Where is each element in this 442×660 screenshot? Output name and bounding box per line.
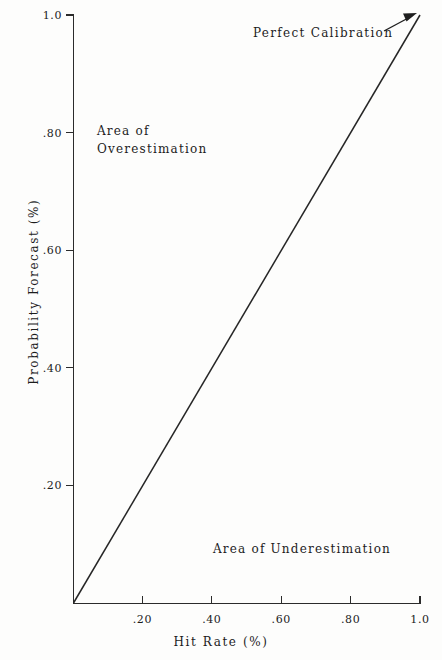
- x-tick-label-0.8: .80: [325, 612, 377, 628]
- x-axis-title: Hit Rate (%): [0, 634, 442, 651]
- chart-canvas: [0, 0, 442, 660]
- y-axis-title: Probability Forecast (%): [26, 225, 43, 385]
- x-tick-label-0.6: .60: [255, 612, 307, 628]
- x-tick-label-1.0: 1.0: [394, 612, 442, 628]
- area-of-overestimation-label: Area of Overestimation: [97, 122, 207, 158]
- overestimation-line-2: Overestimation: [97, 140, 207, 158]
- x-tick-label-0.2: .20: [116, 612, 168, 628]
- overestimation-line-1: Area of: [97, 122, 207, 140]
- y-tick-label-1.0: 1.0: [20, 8, 62, 24]
- perfect-calibration-line: [74, 15, 421, 603]
- perfect-calibration-annotation: Perfect Calibration: [253, 25, 393, 42]
- calibration-chart-figure: 1.0 .80 .60 .40 .20 .20 .40 .60 .80 1.0 …: [0, 0, 442, 660]
- y-tick-label-0.8: .80: [20, 126, 62, 142]
- area-of-underestimation-label: Area of Underestimation: [213, 540, 391, 558]
- y-tick-label-0.2: .20: [20, 478, 62, 494]
- x-tick-label-0.4: .40: [186, 612, 238, 628]
